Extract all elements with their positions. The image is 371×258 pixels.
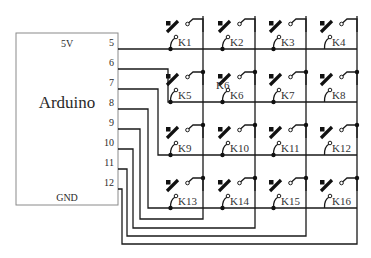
col-junction-dot bbox=[201, 123, 205, 127]
key-k5: K5 bbox=[166, 70, 205, 104]
col-junction-dot bbox=[253, 123, 257, 127]
upper-lead bbox=[292, 125, 307, 138]
lower-lead bbox=[324, 144, 329, 155]
row-junction-dot bbox=[220, 100, 224, 104]
upper-contact-icon bbox=[289, 75, 293, 79]
actuator-icon bbox=[320, 180, 325, 185]
col-junction-dot bbox=[253, 176, 257, 180]
pin-label-6: 6 bbox=[109, 57, 114, 68]
key-k2: K2 bbox=[218, 19, 255, 51]
col-junction-dot bbox=[355, 70, 359, 74]
upper-lead bbox=[189, 125, 204, 138]
upper-lead bbox=[343, 125, 358, 138]
key-k1: K1 bbox=[166, 19, 203, 51]
upper-contact-icon bbox=[289, 181, 293, 185]
upper-lead bbox=[189, 19, 204, 32]
actuator-icon bbox=[269, 21, 274, 26]
row-junction-dot bbox=[271, 153, 275, 157]
upper-contact-icon bbox=[340, 22, 344, 26]
upper-contact-icon bbox=[186, 128, 190, 132]
key-label: K8 bbox=[332, 89, 346, 101]
key-k13: K13 bbox=[166, 176, 205, 210]
col-junction-dot bbox=[304, 176, 308, 180]
actuator-icon bbox=[218, 127, 223, 132]
col-junction-dot bbox=[304, 70, 308, 74]
key-label: K10 bbox=[230, 142, 249, 154]
pin-label-7: 7 bbox=[109, 77, 114, 88]
upper-lead bbox=[241, 19, 256, 32]
key-switches: K1K2K3K4K5K6K7K8K9K10K11K12K13K14K15K16 bbox=[166, 19, 359, 210]
stray-k6-label: K6 bbox=[216, 79, 230, 91]
row-junction-dot bbox=[168, 206, 172, 210]
upper-lead bbox=[241, 125, 256, 138]
key-k7: K7 bbox=[269, 70, 308, 104]
key-label: K12 bbox=[332, 142, 351, 154]
key-k15: K15 bbox=[269, 176, 308, 210]
upper-contact-icon bbox=[186, 181, 190, 185]
upper-contact-icon bbox=[340, 128, 344, 132]
upper-contact-icon bbox=[340, 75, 344, 79]
upper-lead bbox=[241, 72, 256, 85]
key-k3: K3 bbox=[269, 19, 306, 51]
actuator-icon bbox=[269, 74, 274, 79]
row-junction-dot bbox=[168, 47, 172, 51]
actuator-icon bbox=[218, 74, 223, 79]
key-label: K14 bbox=[230, 195, 249, 207]
arduino-block: 5V Arduino GND 56789101112 bbox=[16, 33, 118, 205]
pin-label-11: 11 bbox=[104, 157, 114, 168]
key-k10: K10 bbox=[218, 123, 257, 157]
key-k8: K8 bbox=[320, 70, 359, 102]
lower-lead bbox=[324, 38, 329, 49]
row-junction-dot bbox=[220, 206, 224, 210]
key-k14: K14 bbox=[218, 176, 257, 210]
row-wire-4 bbox=[118, 109, 357, 208]
row-junction-dot bbox=[271, 100, 275, 104]
key-k12: K12 bbox=[320, 123, 359, 155]
key-label: K3 bbox=[281, 36, 295, 48]
arduino-title: Arduino bbox=[39, 93, 96, 112]
upper-lead bbox=[189, 178, 204, 191]
upper-lead bbox=[343, 178, 358, 191]
upper-lead bbox=[241, 178, 256, 191]
key-label: K11 bbox=[281, 142, 300, 154]
col-junction-dot bbox=[355, 123, 359, 127]
upper-contact-icon bbox=[186, 22, 190, 26]
row-junction-dot bbox=[168, 100, 172, 104]
pin-label-9: 9 bbox=[109, 117, 114, 128]
upper-contact-icon bbox=[289, 22, 293, 26]
col-junction-dot bbox=[304, 123, 308, 127]
keypad-matrix-diagram: 5V Arduino GND 56789101112 K1K2K3K4K5K6K… bbox=[0, 0, 371, 258]
actuator-icon bbox=[269, 180, 274, 185]
actuator-icon bbox=[166, 21, 171, 26]
row-junction-dot bbox=[220, 47, 224, 51]
actuator-icon bbox=[166, 74, 171, 79]
upper-lead bbox=[343, 72, 358, 85]
upper-lead bbox=[343, 19, 358, 32]
upper-contact-icon bbox=[238, 181, 242, 185]
key-label: K7 bbox=[281, 89, 295, 101]
upper-lead bbox=[292, 19, 307, 32]
key-k16: K16 bbox=[320, 176, 359, 208]
gnd-label: GND bbox=[56, 192, 78, 203]
row-junction-dot bbox=[271, 47, 275, 51]
row-junction-dot bbox=[220, 153, 224, 157]
actuator-icon bbox=[218, 180, 223, 185]
key-k9: K9 bbox=[166, 123, 205, 157]
pin-label-5: 5 bbox=[109, 37, 114, 48]
col-junction-dot bbox=[355, 176, 359, 180]
key-k11: K11 bbox=[269, 123, 308, 157]
5v-label: 5V bbox=[61, 38, 74, 49]
actuator-icon bbox=[166, 127, 171, 132]
actuator-icon bbox=[320, 74, 325, 79]
upper-lead bbox=[189, 72, 204, 85]
col-junction-dot bbox=[253, 70, 257, 74]
upper-contact-icon bbox=[238, 75, 242, 79]
row-junction-dot bbox=[271, 206, 275, 210]
actuator-icon bbox=[269, 127, 274, 132]
actuator-icon bbox=[218, 21, 223, 26]
pin-label-10: 10 bbox=[104, 137, 114, 148]
upper-lead bbox=[292, 178, 307, 191]
actuator-icon bbox=[320, 127, 325, 132]
upper-contact-icon bbox=[289, 128, 293, 132]
pin-label-8: 8 bbox=[109, 97, 114, 108]
